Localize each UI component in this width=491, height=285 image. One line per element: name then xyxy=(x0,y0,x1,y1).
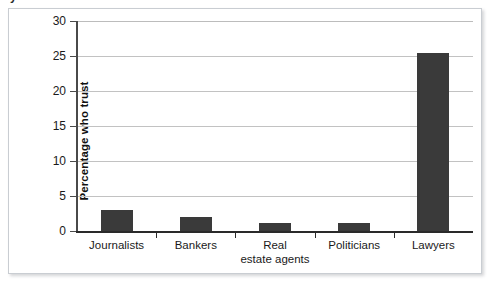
y-tick-label: 0 xyxy=(59,225,66,237)
x-tick-label: Politicians xyxy=(328,239,380,253)
plot-area: 051015202530 JournalistsBankersRealestat… xyxy=(77,21,473,231)
x-tick-label: Bankers xyxy=(175,239,217,253)
x-tick-mark xyxy=(394,231,395,238)
bar[interactable] xyxy=(259,223,291,231)
x-tick-label-line: Journalists xyxy=(89,239,144,251)
gridline xyxy=(77,21,473,22)
cut-off-caption-strip: y xyxy=(0,0,491,8)
y-tick-label: 15 xyxy=(53,120,66,132)
bar[interactable] xyxy=(101,210,133,231)
y-tick-label: 30 xyxy=(53,15,66,27)
x-tick-label-line: Politicians xyxy=(328,239,380,251)
bar[interactable] xyxy=(417,53,449,231)
y-tick-label: 10 xyxy=(53,155,66,167)
gridline xyxy=(77,126,473,127)
x-tick-mark xyxy=(315,231,316,238)
x-tick-mark xyxy=(235,231,236,238)
gridline xyxy=(77,56,473,57)
bar[interactable] xyxy=(180,217,212,231)
x-tick-label-line: Bankers xyxy=(175,239,217,251)
gridline xyxy=(77,91,473,92)
bar[interactable] xyxy=(338,223,370,231)
gridline xyxy=(77,196,473,197)
x-tick-label: Realestate agents xyxy=(240,239,309,266)
x-tick-label: Lawyers xyxy=(412,239,455,253)
x-tick-label-line: Real xyxy=(263,239,287,251)
chart-figure-frame: Percentage who trust 051015202530 Journa… xyxy=(8,8,482,274)
x-tick-label-line: Lawyers xyxy=(412,239,455,251)
y-tick-label: 20 xyxy=(53,85,66,97)
x-tick-label: Journalists xyxy=(89,239,144,253)
x-tick-label-line: estate agents xyxy=(240,253,309,267)
y-tick-label: 25 xyxy=(53,50,66,62)
x-axis-line xyxy=(76,231,473,233)
gridline xyxy=(77,161,473,162)
y-axis-line xyxy=(76,21,78,231)
x-tick-mark xyxy=(156,231,157,238)
y-tick-label: 5 xyxy=(59,190,66,202)
cut-off-caption-text: y xyxy=(10,0,17,3)
